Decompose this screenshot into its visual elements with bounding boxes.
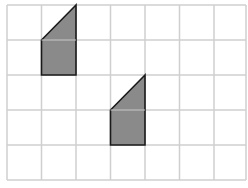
grid-diagram xyxy=(0,0,248,188)
grid xyxy=(7,5,246,180)
